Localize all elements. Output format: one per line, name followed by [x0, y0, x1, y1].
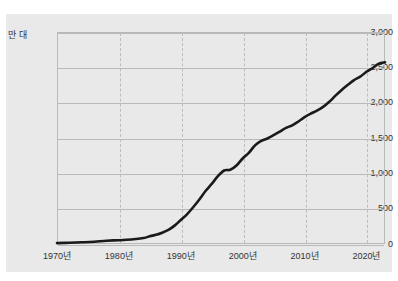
x-axis-tick-label: 2000년: [229, 249, 257, 262]
chart-figure: 만 대 05001,0001,5002,0002,5003,000 1970년1…: [0, 0, 398, 281]
x-axis-tick-label: 2010년: [291, 249, 319, 262]
y-axis-unit-label: 만 대: [8, 28, 27, 41]
x-axis-tick-label: 1980년: [105, 249, 133, 262]
gridline-horizontal: [58, 245, 384, 246]
series-layer: [57, 32, 385, 244]
line-path: [57, 62, 385, 243]
x-axis-tick-label: 2020년: [352, 249, 380, 262]
line-series-car-registrations: [57, 32, 385, 244]
x-axis-tick-label: 1990년: [167, 249, 195, 262]
x-axis-tick-label: 1970년: [43, 249, 71, 262]
